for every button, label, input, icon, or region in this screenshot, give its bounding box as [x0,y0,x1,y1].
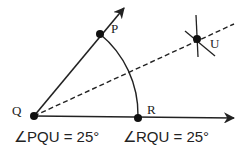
arc-pr [100,34,138,116]
equation-rqu: ∠RQU = 25° [123,128,209,145]
label-q: Q [12,103,22,118]
bisector-line [34,24,234,116]
label-r: R [147,102,156,117]
label-u: U [210,36,220,51]
point-p [96,30,104,38]
label-p: P [111,21,118,36]
bisector-diagram: Q P R U ∠PQU = 25° ∠RQU = 25° [0,0,238,146]
equation-pqu: ∠PQU = 25° [14,128,99,145]
point-r [134,114,142,122]
ray-qr [34,116,234,118]
point-q [30,112,38,120]
point-u [193,35,201,43]
